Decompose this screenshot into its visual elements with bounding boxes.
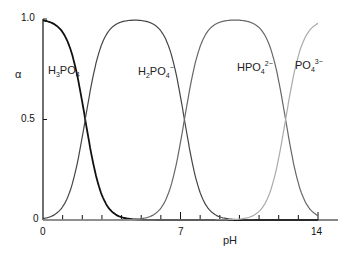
x-tick-0: 0 (40, 226, 46, 237)
x-tick-7: 7 (178, 226, 184, 237)
species-curves (43, 20, 318, 220)
label-h2po4: H2PO4− (138, 64, 174, 79)
label-h3po4: H3PO4 (48, 64, 80, 78)
label-po4: PO43− (295, 58, 323, 73)
label-hpo4: HPO42− (237, 60, 273, 75)
x-axis-label: pH (223, 234, 237, 246)
y-tick-0: 0 (33, 213, 39, 224)
y-axis-label: α (15, 68, 21, 80)
curve-1 (43, 20, 318, 220)
x-tick-14: 14 (311, 226, 322, 237)
chart-plot (0, 0, 359, 253)
y-tick-05: 0.5 (21, 113, 35, 124)
curve-2 (43, 20, 318, 220)
y-tick-1: 1.0 (21, 12, 35, 23)
curve-3 (43, 23, 318, 220)
curve-0 (43, 20, 318, 220)
axes (43, 19, 338, 220)
